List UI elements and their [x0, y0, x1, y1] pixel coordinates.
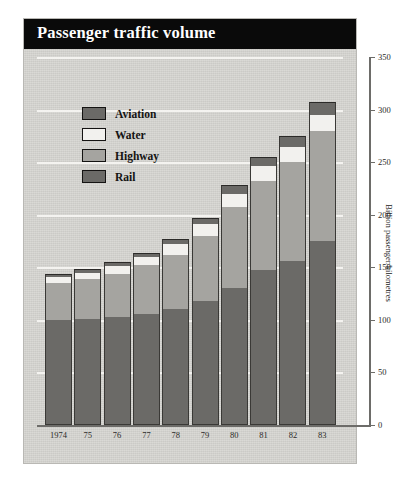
legend-item-rail[interactable]: Rail	[82, 166, 159, 187]
bar-column[interactable]	[279, 136, 306, 425]
x-axis-tick-label: 76	[104, 430, 131, 440]
legend-swatch-water	[82, 128, 106, 141]
y-axis-tick	[369, 372, 375, 373]
legend-item-highway[interactable]: Highway	[82, 145, 159, 166]
y-axis-tick	[369, 162, 375, 163]
bar-segment-water	[192, 224, 219, 236]
plot-area: 1974757677787980818283 05010015020025030…	[37, 57, 343, 449]
bar-segment-water	[279, 147, 306, 162]
bar-segment-highway	[279, 162, 306, 261]
y-axis-tick-label: 0	[378, 420, 382, 430]
y-axis-tick-label: 300	[378, 105, 391, 115]
legend-swatch-aviation	[82, 107, 106, 120]
chart-legend: AviationWaterHighwayRail	[82, 103, 159, 187]
legend-label: Rail	[115, 171, 135, 183]
bar-segment-aviation	[309, 102, 336, 115]
y-axis-tick-label: 350	[378, 52, 391, 62]
bar-segment-rail	[250, 270, 277, 425]
bar-segment-highway	[162, 255, 189, 310]
bar-segment-highway	[250, 181, 277, 270]
x-axis-tick-label: 75	[74, 430, 101, 440]
bar-segment-rail	[74, 319, 101, 425]
x-axis-tick-label: 1974	[45, 430, 72, 440]
bar-segment-rail	[279, 261, 306, 425]
bar-segment-aviation	[104, 262, 131, 266]
bar-segment-aviation	[279, 136, 306, 148]
chart-title-bar: Passenger traffic volume	[24, 19, 356, 49]
x-axis-tick-label: 80	[221, 430, 248, 440]
bar-segment-aviation	[250, 157, 277, 166]
x-axis-tick-label: 78	[162, 430, 189, 440]
legend-item-aviation[interactable]: Aviation	[82, 103, 159, 124]
y-axis-tick	[369, 320, 375, 321]
bar-segment-rail	[192, 301, 219, 425]
x-axis-tick-label: 82	[279, 430, 306, 440]
page-title: Passenger traffic volume	[37, 23, 216, 43]
y-axis-line	[369, 57, 371, 425]
y-axis-tick-label: 50	[378, 367, 387, 377]
x-axis-line	[37, 425, 371, 427]
bar-segment-aviation	[74, 269, 101, 272]
bar-column[interactable]	[221, 185, 248, 425]
bar-segment-highway	[104, 274, 131, 317]
bar-column[interactable]	[74, 269, 101, 425]
bar-segment-rail	[221, 288, 248, 425]
legend-label: Water	[115, 129, 146, 141]
bar-segment-water	[104, 266, 131, 273]
bar-segment-water	[162, 244, 189, 255]
bar-column[interactable]	[104, 262, 131, 425]
legend-label: Highway	[115, 150, 159, 162]
y-axis-tick-label: 250	[378, 157, 391, 167]
bar-segment-aviation	[162, 239, 189, 244]
y-axis-title: Billion passenger/kilometres	[384, 204, 394, 302]
legend-label: Aviation	[115, 108, 156, 120]
bar-segment-rail	[45, 320, 72, 425]
x-axis-tick-label: 79	[192, 430, 219, 440]
legend-swatch-rail	[82, 170, 106, 183]
bar-column[interactable]	[133, 253, 160, 425]
bar-segment-highway	[192, 236, 219, 301]
bar-column[interactable]	[162, 239, 189, 425]
bar-segment-highway	[309, 131, 336, 241]
x-axis-tick-label: 77	[133, 430, 160, 440]
y-axis-tick	[369, 110, 375, 111]
bar-segment-aviation	[192, 218, 219, 224]
y-axis-tick	[369, 215, 375, 216]
chart-figure: Passenger traffic volume 197475767778798…	[24, 19, 356, 463]
bar-segment-rail	[162, 309, 189, 425]
y-axis-tick	[369, 267, 375, 268]
bar-column[interactable]	[250, 157, 277, 425]
bar-segment-aviation	[45, 274, 72, 277]
y-axis-tick	[369, 57, 375, 58]
bar-segment-water	[250, 166, 277, 181]
bar-segment-water	[45, 277, 72, 283]
bar-segment-water	[74, 273, 101, 279]
bar-segment-aviation	[133, 253, 160, 257]
bar-segment-highway	[221, 207, 248, 288]
bar-segment-highway	[45, 283, 72, 320]
bar-column[interactable]	[192, 218, 219, 425]
bar-segment-water	[309, 115, 336, 131]
bar-column[interactable]	[309, 102, 336, 425]
legend-item-water[interactable]: Water	[82, 124, 159, 145]
bar-segment-rail	[133, 314, 160, 425]
bar-segment-highway	[74, 279, 101, 319]
x-axis-tick-label: 81	[250, 430, 277, 440]
bar-segment-rail	[309, 241, 336, 425]
y-axis-tick	[369, 425, 375, 426]
bar-segment-highway	[133, 265, 160, 313]
y-axis-tick-label: 100	[378, 315, 391, 325]
bar-column[interactable]	[45, 274, 72, 425]
x-axis-tick-label: 83	[309, 430, 336, 440]
bar-segment-water	[133, 257, 160, 265]
legend-swatch-highway	[82, 149, 106, 162]
bar-segment-aviation	[221, 185, 248, 193]
bar-segment-rail	[104, 317, 131, 425]
bar-segment-water	[221, 194, 248, 208]
